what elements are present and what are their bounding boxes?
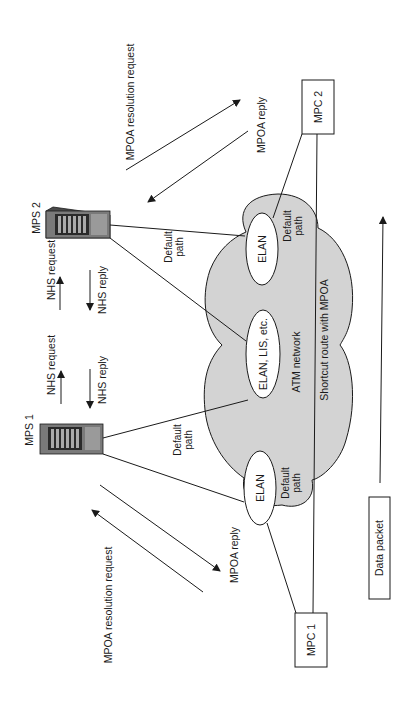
- mpoa-request-arrow-top: [126, 100, 240, 170]
- mpoa-request-label-bottom: MPOA resolution request: [102, 547, 114, 664]
- mpoa-request-label-top: MPOA resolution request: [124, 44, 136, 161]
- mpc1-default-path-line: [267, 523, 296, 613]
- data-packet-arrow: [380, 217, 383, 483]
- elan-bottom: ELAN: [244, 451, 276, 525]
- svg-text:Default: Default: [172, 424, 183, 456]
- mpoa-diagram: ELAN ELAN, LIS, etc. ELAN ATM network Sh…: [0, 0, 409, 710]
- atm-network-label: ATM network: [290, 331, 302, 393]
- mps1-default-path-label: Default path: [172, 424, 194, 456]
- nhs-request-label-2: NHS request: [45, 240, 57, 300]
- data-packet-label: Data packet: [373, 520, 385, 576]
- svg-text:path: path: [293, 216, 304, 235]
- mps1-server: MPS 1: [23, 414, 103, 454]
- nhs-reply-label-2: NHS reply: [96, 265, 108, 314]
- svg-text:Default: Default: [280, 467, 291, 499]
- mps1-to-elan-bottom-line: [103, 454, 244, 502]
- elan-middle-label: ELAN, LIS, etc.: [257, 318, 269, 390]
- mpoa-exchange-top: MPOA resolution request MPOA reply: [124, 44, 267, 202]
- svg-text:path: path: [291, 473, 302, 492]
- elan-bottom-label: ELAN: [254, 474, 266, 501]
- mpc2-box: MPC 2: [302, 80, 334, 134]
- nhs-request-label-1: NHS request: [45, 335, 57, 395]
- mpoa-reply-label-bottom: MPOA reply: [228, 526, 240, 583]
- nhs-reply-label-1: NHS reply: [96, 355, 108, 404]
- mpc1-box: MPC 1: [295, 613, 327, 667]
- data-packet: Data packet: [369, 217, 390, 599]
- server-icon: [40, 424, 103, 454]
- elan-top: ELAN: [246, 213, 278, 285]
- nhs-exchange-mps1: NHS request NHS reply: [45, 335, 108, 408]
- svg-text:Default: Default: [282, 210, 293, 242]
- mps2-to-elan-top-line: [110, 225, 245, 236]
- mpoa-reply-label-top: MPOA reply: [255, 96, 267, 153]
- mps2-server: MPS 2: [30, 202, 110, 238]
- mpoa-reply-arrow-bottom: [100, 485, 220, 571]
- svg-text:path: path: [174, 237, 185, 256]
- elan-middle: ELAN, LIS, etc.: [246, 310, 280, 398]
- mpc1-label: MPC 1: [305, 624, 317, 656]
- mpoa-reply-arrow-top: [148, 131, 248, 202]
- shortcut-route-label: Shortcut route with MPOA: [318, 279, 330, 400]
- server-icon: [46, 207, 110, 238]
- mps2-default-path-label: Default path: [163, 231, 185, 263]
- mps1-label: MPS 1: [23, 414, 35, 446]
- elan-top-label: ELAN: [256, 235, 268, 262]
- nhs-exchange-mps2: NHS request NHS reply: [45, 240, 108, 314]
- svg-text:Default: Default: [163, 231, 174, 263]
- mpoa-exchange-bottom: MPOA resolution request MPOA reply: [92, 485, 240, 663]
- mps2-label: MPS 2: [30, 202, 42, 234]
- svg-text:path: path: [183, 430, 194, 449]
- mpc2-label: MPC 2: [312, 91, 324, 123]
